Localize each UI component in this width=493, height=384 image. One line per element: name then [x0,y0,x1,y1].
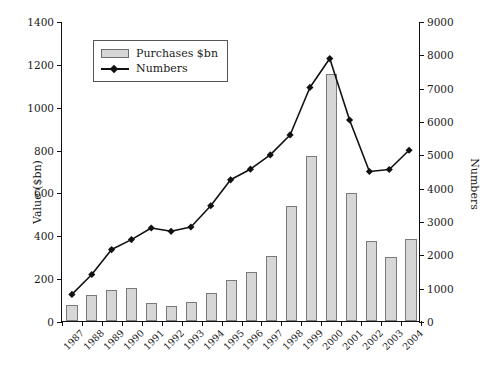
x-tick-mark [261,321,262,326]
right-tick-mark [419,89,424,90]
x-tick-mark [182,321,183,326]
x-tick-mark [102,321,103,326]
legend-label-purchases: Purchases $bn [136,47,218,60]
right-tick-label: 7000 [427,83,454,94]
right-tick-label: 3000 [427,217,454,228]
x-tick-label: 1991 [142,328,166,352]
x-tick-mark [62,321,63,326]
x-tick-mark [162,321,163,326]
right-tick-label: 6000 [427,117,454,128]
x-tick-label: 1997 [261,328,285,352]
x-tick-mark [361,321,362,326]
left-tick-label: 200 [34,274,54,285]
x-tick-label: 1990 [122,328,146,352]
right-tick-label: 0 [427,317,434,328]
right-tick-mark [419,222,424,223]
x-tick-mark [142,321,143,326]
right-tick-label: 5000 [427,150,454,161]
legend-item-numbers: Numbers [101,61,218,76]
x-tick-mark [222,321,223,326]
right-tick-mark [419,255,424,256]
x-tick-label: 1998 [281,328,305,352]
right-tick-mark [419,155,424,156]
x-tick-mark [401,321,402,326]
x-tick-label: 1992 [162,328,186,352]
right-tick-mark [419,122,424,123]
right-axis-title: Numbers [469,159,482,211]
x-tick-label: 2003 [381,328,405,352]
right-tick-mark [419,55,424,56]
left-tick-label: 1400 [27,17,54,28]
x-tick-label: 1995 [221,328,245,352]
left-tick-label: 1200 [27,60,54,71]
x-tick-mark [301,321,302,326]
x-tick-label: 1999 [301,328,325,352]
numbers-marker-1992 [168,228,175,235]
x-tick-mark [202,321,203,326]
x-tick-label: 2001 [341,328,365,352]
numbers-marker-1990 [128,236,135,243]
chart-legend: Purchases $bn Numbers [93,40,228,82]
x-tick-mark [381,321,382,326]
x-tick-mark [281,321,282,326]
left-tick-label: 800 [34,145,54,156]
right-tick-label: 9000 [427,17,454,28]
numbers-polyline [72,59,409,295]
left-tick-label: 400 [34,231,54,242]
plot-area: 0200400600800100012001400 01000200030004… [61,22,420,322]
right-tick-mark [419,189,424,190]
right-tick-mark [419,289,424,290]
left-tick-label: 600 [34,188,54,199]
left-tick-label: 0 [47,317,54,328]
numbers-marker-2001 [346,116,353,123]
x-tick-label: 1993 [182,328,206,352]
x-tick-mark [341,321,342,326]
x-tick-label: 2000 [321,328,345,352]
right-tick-label: 8000 [427,50,454,61]
right-tick-label: 4000 [427,183,454,194]
line-diamond-swatch-icon [101,64,129,73]
x-tick-label: 1987 [62,328,86,352]
numbers-marker-1991 [148,224,155,231]
x-tick-mark [82,321,83,326]
legend-label-numbers: Numbers [136,62,188,75]
chart-figure: Value ($bn) Numbers 02004006008001000120… [0,0,493,384]
left-tick-label: 1000 [27,102,54,113]
x-tick-label: 1994 [201,328,225,352]
numbers-marker-group [68,55,412,298]
x-tick-label: 2002 [361,328,385,352]
numbers-marker-2002 [366,168,373,175]
x-tick-label: 2004 [401,328,425,352]
right-tick-label: 2000 [427,250,454,261]
x-tick-label: 1988 [82,328,106,352]
x-tick-label: 1989 [102,328,126,352]
legend-item-purchases: Purchases $bn [101,46,218,61]
x-tick-label: 1996 [241,328,265,352]
x-tick-mark [242,321,243,326]
right-tick-mark [419,22,424,23]
bar-swatch-icon [101,49,129,58]
x-tick-mark [421,321,422,326]
x-tick-mark [122,321,123,326]
x-tick-mark [321,321,322,326]
right-tick-label: 1000 [427,283,454,294]
